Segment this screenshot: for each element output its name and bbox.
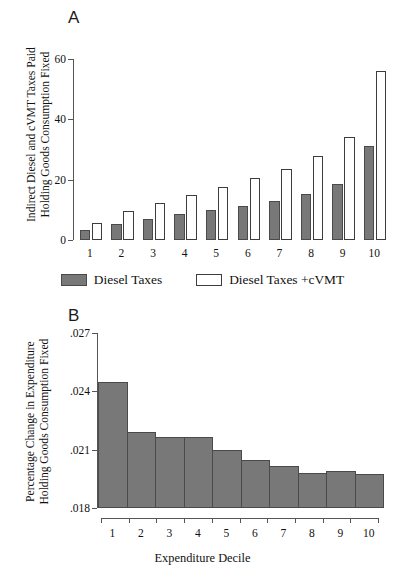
- panel-a-bar: [313, 156, 324, 240]
- panel-b-x-tick-label: 4: [195, 527, 201, 539]
- panel-a-bar: [218, 187, 229, 240]
- panel-b-x-tick: [212, 518, 213, 523]
- panel-b-bar: [241, 460, 271, 508]
- panel-b-bar: [184, 437, 214, 508]
- panel-a-bar: [123, 211, 134, 240]
- panel-a-bar: [376, 71, 387, 240]
- panel-b-x-tick-label: 1: [109, 527, 115, 539]
- panel-a-y-tick: [68, 180, 73, 181]
- panel-b-y-tick-label: .021: [70, 444, 90, 456]
- panel-b-bar: [298, 473, 328, 508]
- panel-a-x-tick-label: 9: [340, 247, 346, 259]
- panel-a-bar: [238, 206, 249, 240]
- panel-a-bar: [344, 137, 355, 240]
- legend-label-diesel-taxes-cvmt: Diesel Taxes +cVMT: [229, 272, 344, 288]
- panel-a-bar: [281, 169, 292, 240]
- panel-a-bar: [269, 201, 280, 240]
- panel-b-x-tick: [129, 518, 130, 523]
- panel-b-x-tick: [267, 518, 268, 523]
- panel-a-x-tick-label: 2: [119, 247, 125, 259]
- panel-b-x-tick-label: 7: [280, 527, 286, 539]
- panel-a-bar: [111, 224, 122, 240]
- panel-b-x-tick: [295, 518, 296, 523]
- panel-a-bar: [364, 146, 375, 240]
- panel-b-y-tick-label: .027: [70, 327, 90, 339]
- panel-b-x-tick: [156, 518, 157, 523]
- panel-b-x-tick-label: 8: [309, 527, 315, 539]
- panel-b-bar: [127, 432, 157, 508]
- panel-b-bar: [212, 450, 242, 508]
- panel-a-bar: [80, 230, 91, 240]
- panel-a-bar: [143, 219, 154, 240]
- panel-a-bar: [155, 203, 166, 240]
- panel-a-letter: A: [68, 8, 80, 28]
- panel-a-x-tick-label: 6: [245, 247, 251, 259]
- panel-a-bar: [186, 195, 197, 240]
- panel-b-x-tick: [184, 518, 185, 523]
- panel-a-bar: [301, 194, 312, 240]
- panel-a-bar: [92, 223, 103, 240]
- panel-a-x-tick-label: 5: [213, 247, 219, 259]
- panel-b-bar: [155, 437, 185, 508]
- panel-b-y-axis-title-line1: Percentage Change in Expenditure: [24, 342, 37, 503]
- panel-a-y-tick-label: 60: [55, 53, 67, 65]
- panel-b-x-tick-label: 5: [223, 527, 229, 539]
- panel-a-x-tick-label: 10: [368, 247, 380, 259]
- panel-a-bar: [250, 178, 261, 240]
- legend-item-diesel-taxes-cvmt: Diesel Taxes +cVMT: [196, 272, 344, 288]
- panel-b-y-axis-title-line2: Holding Goods Consumption Fixed: [38, 339, 52, 505]
- legend-swatch-solid: [61, 274, 87, 286]
- panel-b-x-tick-label: 9: [337, 527, 343, 539]
- panel-a-x-tick-label: 3: [150, 247, 156, 259]
- panel-a-bar: [174, 214, 185, 240]
- panel-b-x-tick: [101, 518, 102, 523]
- panel-b-x-tick: [240, 518, 241, 523]
- panel-a-y-tick: [68, 119, 73, 120]
- panel-a-y-tick-label: 20: [55, 174, 67, 186]
- legend: Diesel Taxes Diesel Taxes +cVMT: [0, 272, 405, 288]
- panel-b-y-tick: [92, 508, 97, 509]
- panel-a-y-axis-line: [73, 59, 74, 240]
- panel-b-x-tick: [323, 518, 324, 523]
- panel-b-x-tick-label: 10: [363, 527, 375, 539]
- panel-a-bar: [206, 210, 217, 240]
- panel-a-y-tick: [68, 59, 73, 60]
- legend-swatch-hollow: [196, 274, 222, 286]
- panel-a-y-tick-label: 40: [55, 113, 67, 125]
- panel-b-x-tick: [350, 518, 351, 523]
- panel-a-x-tick-label: 1: [87, 247, 93, 259]
- panel-b-x-axis-title: Expenditure Decile: [0, 551, 405, 566]
- panel-a-plot-area: 0204060: [73, 59, 389, 240]
- panel-a-x-tick-label: 4: [182, 247, 188, 259]
- panel-b-bar: [98, 382, 128, 508]
- panel-a-y-axis-title-line2: Holding Goods Consumption Fixed: [38, 48, 52, 223]
- panel-b-bar: [355, 474, 385, 508]
- panel-a-x-tick-label: 8: [308, 247, 314, 259]
- panel-b-y-tick: [92, 391, 97, 392]
- panel-b-bar: [269, 466, 299, 508]
- panel-a: A Indirect Diesel and cVMT Taxes Paid Ho…: [0, 0, 405, 296]
- panel-b-x-tick-label: 6: [252, 527, 258, 539]
- panel-a-x-tick-label: 7: [277, 247, 283, 259]
- panel-a-y-tick: [68, 240, 73, 241]
- panel-a-y-axis-title-line1: Indirect Diesel and cVMT Taxes Paid: [24, 48, 37, 223]
- panel-b-bar: [326, 471, 356, 508]
- panel-a-bar: [332, 184, 343, 240]
- figure-root: A Indirect Diesel and cVMT Taxes Paid Ho…: [0, 0, 405, 587]
- panel-b-y-tick-label: .024: [70, 385, 90, 397]
- panel-b-x-tick-label: 2: [138, 527, 144, 539]
- panel-b-y-tick: [92, 450, 97, 451]
- panel-b-x-tick-label: 3: [166, 527, 172, 539]
- panel-b-plot-area: .018.021.024.027: [97, 333, 382, 508]
- panel-b-x-tick: [378, 518, 379, 523]
- panel-b-y-tick-label: .018: [70, 502, 90, 514]
- panel-b-y-tick: [92, 333, 97, 334]
- panel-a-y-tick-label: 0: [60, 234, 66, 246]
- legend-label-diesel-taxes: Diesel Taxes: [94, 272, 162, 288]
- legend-item-diesel-taxes: Diesel Taxes: [61, 272, 162, 288]
